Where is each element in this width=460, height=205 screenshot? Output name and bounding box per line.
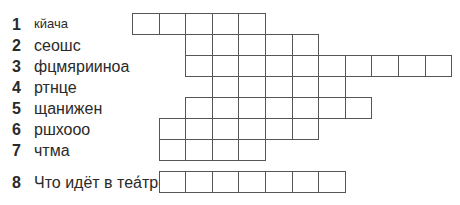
letter-cell[interactable] bbox=[185, 171, 213, 193]
letter-cell[interactable] bbox=[185, 97, 213, 119]
letter-cell[interactable] bbox=[132, 13, 160, 35]
scrambled-word: щанижен bbox=[34, 100, 102, 118]
letter-cell[interactable] bbox=[185, 118, 213, 140]
letter-cell[interactable] bbox=[185, 55, 213, 77]
letter-cell[interactable] bbox=[185, 13, 213, 35]
letter-cell[interactable] bbox=[265, 118, 293, 140]
letter-cell[interactable] bbox=[318, 55, 346, 77]
letter-cell[interactable] bbox=[265, 55, 293, 77]
letter-cell[interactable] bbox=[212, 171, 240, 193]
letter-cell[interactable] bbox=[238, 55, 266, 77]
letter-cell[interactable] bbox=[238, 34, 266, 56]
letter-cell[interactable] bbox=[292, 55, 320, 77]
letter-cell[interactable] bbox=[212, 13, 240, 35]
letter-cell[interactable] bbox=[292, 76, 320, 98]
letter-cell[interactable] bbox=[318, 97, 346, 119]
letter-cell[interactable] bbox=[318, 171, 346, 193]
letter-cell[interactable] bbox=[265, 76, 293, 98]
letter-cell[interactable] bbox=[185, 139, 213, 161]
letter-cell[interactable] bbox=[265, 34, 293, 56]
row-number: 8 bbox=[12, 174, 26, 192]
letter-cell[interactable] bbox=[212, 139, 240, 161]
letter-cell[interactable] bbox=[265, 97, 293, 119]
letter-cell[interactable] bbox=[185, 34, 213, 56]
letter-cell[interactable] bbox=[159, 139, 187, 161]
scrambled-word: ртнце bbox=[34, 79, 77, 97]
letter-cell[interactable] bbox=[318, 76, 346, 98]
letter-cell[interactable] bbox=[345, 97, 373, 119]
letter-cell[interactable] bbox=[238, 97, 266, 119]
letter-cell[interactable] bbox=[238, 13, 266, 35]
scrambled-word: кйача bbox=[34, 16, 68, 31]
row-number: 3 bbox=[12, 58, 26, 76]
letter-cell[interactable] bbox=[292, 34, 320, 56]
letter-cell[interactable] bbox=[425, 55, 453, 77]
scrambled-word: сеошс bbox=[34, 37, 81, 55]
scrambled-word: ршхооо bbox=[34, 121, 90, 139]
scrambled-word: фцмяриинoа bbox=[34, 58, 129, 76]
question-text: Что идёт в теа́тре? bbox=[34, 174, 176, 192]
row-number: 6 bbox=[12, 121, 26, 139]
letter-cell[interactable] bbox=[371, 55, 399, 77]
letter-cell[interactable] bbox=[212, 97, 240, 119]
row-number: 5 bbox=[12, 100, 26, 118]
letter-cell[interactable] bbox=[212, 55, 240, 77]
letter-cell[interactable] bbox=[292, 171, 320, 193]
letter-cell[interactable] bbox=[238, 118, 266, 140]
row-number: 2 bbox=[12, 37, 26, 55]
letter-cell[interactable] bbox=[159, 118, 187, 140]
letter-cell[interactable] bbox=[159, 13, 187, 35]
scrambled-word: чтма bbox=[34, 142, 70, 160]
row-number: 1 bbox=[12, 16, 26, 34]
letter-cell[interactable] bbox=[292, 118, 320, 140]
letter-cell[interactable] bbox=[265, 171, 293, 193]
letter-cell[interactable] bbox=[238, 171, 266, 193]
letter-cell[interactable] bbox=[398, 55, 426, 77]
letter-cell[interactable] bbox=[345, 55, 373, 77]
letter-cell[interactable] bbox=[159, 171, 187, 193]
letter-cell[interactable] bbox=[238, 76, 266, 98]
row-number: 4 bbox=[12, 79, 26, 97]
row-number: 7 bbox=[12, 142, 26, 160]
letter-cell[interactable] bbox=[212, 34, 240, 56]
letter-cell[interactable] bbox=[212, 76, 240, 98]
letter-cell[interactable] bbox=[292, 97, 320, 119]
letter-cell[interactable] bbox=[212, 118, 240, 140]
letter-cell[interactable] bbox=[238, 139, 266, 161]
